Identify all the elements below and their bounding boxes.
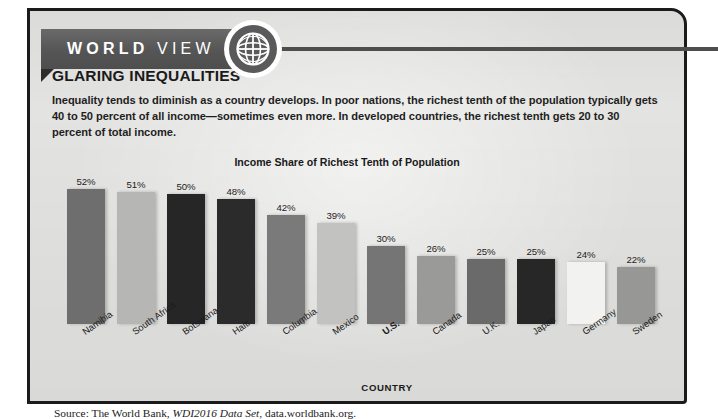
bar-chart-plot-area: 52% 51% 50% 48% 42% 39% 30% 26% 25% 25% … — [66, 174, 656, 324]
bar-value-label: 50% — [176, 182, 195, 192]
bar — [267, 215, 305, 324]
bar-value-label: 52% — [76, 177, 95, 187]
bar-column: 48% — [216, 174, 256, 324]
x-axis-cell: South Africa — [116, 326, 156, 378]
bar — [117, 192, 155, 324]
x-axis-cell: Germany — [566, 326, 606, 378]
bar-column: 30% — [366, 174, 406, 324]
bar-column: 39% — [316, 174, 356, 324]
x-axis-title: COUNTRY — [52, 382, 662, 393]
bar-value-label: 42% — [276, 203, 295, 213]
x-axis-cell: Japan — [516, 326, 556, 378]
bar-value-label: 48% — [226, 187, 245, 197]
banner-rule — [278, 47, 718, 51]
bar-value-label: 51% — [126, 180, 145, 190]
source-prefix: Source: The World Bank, — [54, 407, 173, 419]
page-title: GLARING INEQUALITIES — [52, 67, 662, 85]
bar — [467, 259, 505, 324]
bar-value-label: 22% — [626, 255, 645, 265]
bar-value-label: 25% — [526, 247, 545, 257]
bar-column: 22% — [616, 174, 656, 324]
x-axis-cell: Haiti — [216, 326, 256, 378]
bar-value-label: 26% — [426, 244, 445, 254]
source-suffix: , data.worldbank.org. — [259, 407, 356, 419]
bar-column: 24% — [566, 174, 606, 324]
bar-value-label: 25% — [476, 247, 495, 257]
bar — [67, 189, 105, 324]
x-axis-cell: Sweden — [616, 326, 656, 378]
source-dataset-name: WDI2016 Data Set — [173, 407, 260, 419]
bar-value-label: 39% — [326, 211, 345, 221]
x-axis-cell: Mexico — [316, 326, 356, 378]
bar — [367, 246, 405, 324]
banner-word-world: WORLD — [67, 40, 148, 57]
x-axis-cell: Botswana — [166, 326, 206, 378]
x-axis-tick-labels: Namibia South Africa Botswana Haiti Colu… — [66, 326, 656, 378]
x-axis-cell: Columbia — [266, 326, 306, 378]
bar — [317, 223, 355, 324]
source-note: Source: The World Bank, WDI2016 Data Set… — [52, 407, 662, 419]
bar-column: 51% — [116, 174, 156, 324]
bar-value-label: 24% — [576, 250, 595, 260]
globe-icon-disc — [229, 25, 277, 73]
x-axis-cell: U.S. — [366, 326, 406, 378]
chart-title: Income Share of Richest Tenth of Populat… — [52, 156, 662, 168]
panel-content: GLARING INEQUALITIES Inequality tends to… — [30, 11, 684, 419]
globe-icon — [224, 20, 282, 78]
x-axis-cell: U.K. — [466, 326, 506, 378]
x-axis-cell: Canada — [416, 326, 456, 378]
bar-column: 25% — [466, 174, 506, 324]
banner-title: WORLD VIEW — [41, 40, 215, 58]
ribbon-fold-decoration — [41, 69, 54, 82]
article-lede: Inequality tends to diminish as a countr… — [52, 93, 662, 140]
bar-column: 25% — [516, 174, 556, 324]
bar-value-label: 30% — [376, 234, 395, 244]
x-axis-cell: Namibia — [66, 326, 106, 378]
bar-column: 42% — [266, 174, 306, 324]
bar-column: 52% — [66, 174, 106, 324]
banner-word-view: VIEW — [157, 40, 215, 57]
bar-column: 26% — [416, 174, 456, 324]
bar — [217, 199, 255, 324]
world-view-feature-panel: WORLD VIEW GLARING INEQUALITIES Inequali… — [27, 8, 687, 404]
